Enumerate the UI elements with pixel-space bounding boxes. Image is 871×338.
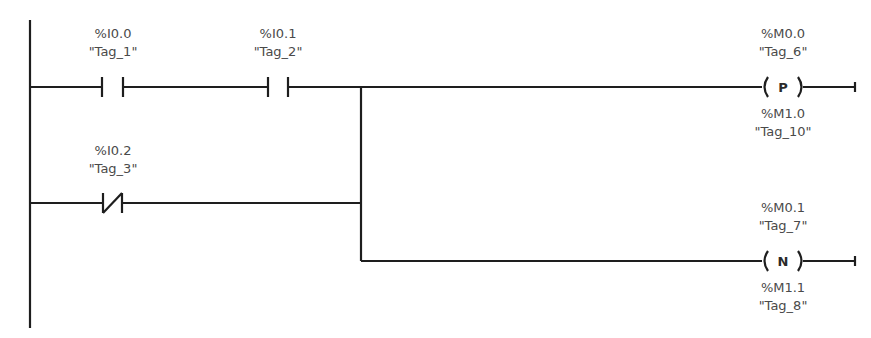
coil-address: %M0.1 (723, 200, 843, 216)
coil-tag: "Tag_6" (723, 44, 843, 60)
coil-letter-p: P (778, 80, 788, 95)
coil-edge-tag: "Tag_10" (723, 124, 843, 140)
contact-tag: "Tag_3" (53, 161, 173, 177)
contact-tag: "Tag_2" (218, 44, 338, 60)
coil-address: %M0.0 (723, 26, 843, 42)
coil-p-tag6[interactable]: P (765, 77, 802, 97)
contact-no-tag2[interactable] (268, 77, 288, 97)
contact-address: %I0.0 (53, 26, 173, 42)
contact-no-tag1[interactable] (102, 77, 123, 97)
contact-tag: "Tag_1" (53, 44, 173, 60)
coil-n-tag7[interactable]: N (765, 251, 802, 271)
contact-address: %I0.1 (218, 26, 338, 42)
contact-nc-tag3[interactable] (103, 193, 122, 213)
coil-edge-address: %M1.1 (723, 280, 843, 296)
coil-edge-address: %M1.0 (723, 106, 843, 122)
coil-edge-tag: "Tag_8" (723, 298, 843, 314)
coil-letter-n: N (778, 254, 789, 269)
contact-address: %I0.2 (53, 143, 173, 159)
coil-tag: "Tag_7" (723, 218, 843, 234)
